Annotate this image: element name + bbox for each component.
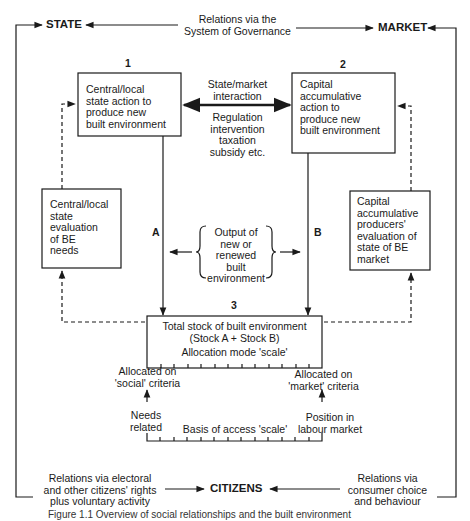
consumer-relations-label: Relations via consumer choice and behavi…: [340, 473, 435, 508]
labour-market-label: Position in labour market: [290, 412, 370, 435]
state-evaluation-text: Central/local state evaluation of BE nee…: [50, 199, 108, 257]
flow-a-label: A: [152, 227, 160, 239]
left-loop-line: [16, 25, 42, 497]
node-market: MARKET: [378, 22, 427, 34]
market-evaluation-text: Capital accumulative producers' evaluati…: [357, 196, 418, 265]
interaction-detail: Regulation intervention taxation subsidy…: [190, 112, 285, 158]
right-loop-line: [428, 28, 456, 497]
box3-number: 3: [231, 300, 237, 312]
stock-to-market-eval-dashed: [324, 273, 411, 322]
state-eval-to-action-dashed: [62, 104, 75, 189]
figure-caption: Figure 1.1 Overview of social relationsh…: [48, 509, 351, 520]
needs-related-label: Needs related: [115, 410, 177, 433]
node-state: STATE: [46, 19, 82, 31]
allocation-scale-label: Allocation mode 'scale': [147, 347, 322, 359]
allocated-social-label: Allocated on 'social' criteria: [100, 366, 195, 389]
stock-to-state-eval-dashed: [62, 271, 145, 322]
electoral-relations-label: Relations via electoral and other citize…: [30, 473, 170, 508]
box1-text: Central/local state action to produce ne…: [86, 84, 166, 130]
allocated-market-label: Allocated on 'market' criteria: [276, 369, 371, 392]
output-label: Output of new or renewed built environme…: [204, 227, 268, 285]
flow-b-label: B: [314, 227, 322, 239]
access-scale-label: Basis of access 'scale': [170, 424, 300, 436]
box1-number: 1: [125, 58, 131, 70]
box2-text: Capital accumulative action to produce n…: [300, 79, 380, 137]
box3-title: Total stock of built environment (Stock …: [147, 321, 322, 344]
governance-relation-label: Relations via the System of Governance: [180, 14, 295, 37]
market-eval-to-action-dashed: [398, 106, 411, 191]
interaction-label: State/market interaction: [190, 79, 285, 102]
node-citizens: CITIZENS: [210, 483, 262, 495]
box2-number: 2: [340, 59, 346, 71]
